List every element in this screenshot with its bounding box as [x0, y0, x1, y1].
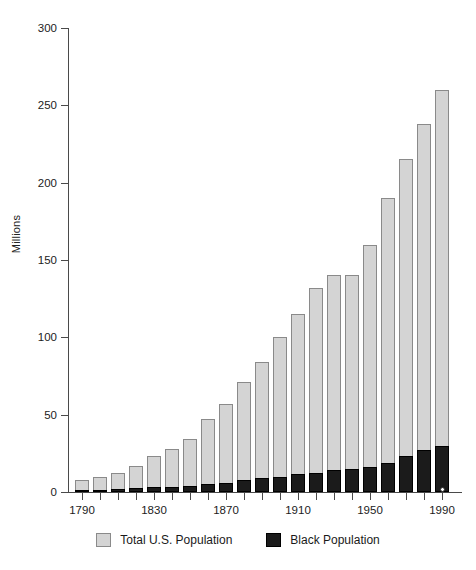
bar-black-population [219, 483, 233, 492]
bar-total-population [363, 245, 377, 492]
x-axis-tick [406, 492, 407, 500]
x-axis-tick [298, 492, 299, 500]
bar-black-population [273, 477, 287, 492]
x-axis-tick [370, 492, 371, 500]
legend-label-black: Black Population [290, 533, 379, 547]
x-axis-tick [352, 492, 353, 500]
bar-black-population [309, 473, 323, 492]
x-axis-tick-label: 1950 [357, 504, 383, 516]
baseline-open-circle-marker [440, 487, 445, 492]
x-axis-tick [136, 492, 137, 500]
legend-item-total: Total U.S. Population [96, 533, 232, 547]
y-axis-title: Millions [10, 194, 22, 274]
y-axis-tick [61, 260, 68, 261]
x-axis-tick [226, 492, 227, 500]
bar-total-population [237, 382, 251, 492]
y-axis-tick-label: 150 [38, 254, 57, 266]
x-axis-tick [118, 492, 119, 500]
x-axis-tick [172, 492, 173, 500]
y-axis-tick [61, 415, 68, 416]
bar-total-population [165, 449, 179, 492]
x-axis-tick-label: 1790 [69, 504, 95, 516]
x-axis-tick [190, 492, 191, 500]
x-axis-tick [154, 492, 155, 500]
bar-total-population [399, 159, 413, 492]
population-bar-chart: Millions 0501001502002503001790183018701… [0, 0, 476, 570]
y-axis-tick [61, 492, 68, 493]
plot-area: 0501001502002503001790183018701910195019… [68, 28, 456, 492]
bar-black-population [399, 456, 413, 492]
y-axis-tick-label: 100 [38, 331, 57, 343]
y-axis-tick-label: 50 [44, 409, 57, 421]
x-axis-tick [280, 492, 281, 500]
bar-black-population [255, 478, 269, 492]
bar-total-population [345, 275, 359, 492]
bar-black-population [237, 480, 251, 492]
y-axis-tick [61, 337, 68, 338]
y-axis-tick-label: 200 [38, 177, 57, 189]
x-axis-tick [316, 492, 317, 500]
bar-black-population [291, 474, 305, 492]
bar-black-population [327, 470, 341, 492]
bar-total-population [273, 337, 287, 492]
y-axis-tick [61, 183, 68, 184]
x-axis-tick-label: 1990 [429, 504, 455, 516]
bar-total-population [381, 198, 395, 492]
bar-total-population [201, 419, 215, 492]
x-axis-line [68, 492, 462, 493]
bar-total-population [309, 288, 323, 492]
bar-total-population [291, 314, 305, 492]
y-axis-tick [61, 28, 68, 29]
bar-black-population [435, 446, 449, 492]
bar-black-population [345, 469, 359, 492]
y-axis-tick-label: 300 [38, 22, 57, 34]
bar-total-population [255, 362, 269, 492]
x-axis-tick [388, 492, 389, 500]
bar-black-population [201, 484, 215, 492]
y-axis-tick [61, 105, 68, 106]
x-axis-tick [262, 492, 263, 500]
bar-total-population [417, 124, 431, 492]
bar-black-population [417, 450, 431, 492]
x-axis-tick [442, 492, 443, 500]
chart-legend: Total U.S. Population Black Population [0, 533, 476, 547]
x-axis-tick [334, 492, 335, 500]
bar-black-population [363, 467, 377, 492]
x-axis-tick [244, 492, 245, 500]
x-axis-tick [208, 492, 209, 500]
x-axis-tick [100, 492, 101, 500]
x-axis-tick [424, 492, 425, 500]
x-axis-tick-label: 1830 [141, 504, 167, 516]
x-axis-tick-label: 1910 [285, 504, 311, 516]
bar-total-population [327, 275, 341, 492]
y-axis-tick-label: 250 [38, 99, 57, 111]
bar-total-population [435, 90, 449, 492]
legend-label-total: Total U.S. Population [120, 533, 232, 547]
x-axis-tick [82, 492, 83, 500]
y-axis-tick-label: 0 [51, 486, 57, 498]
bar-total-population [183, 439, 197, 492]
bar-total-population [219, 404, 233, 492]
bar-black-population [381, 463, 395, 492]
x-axis-tick-label: 1870 [213, 504, 239, 516]
black-swatch [266, 533, 281, 547]
light-gray-swatch [96, 533, 111, 547]
legend-item-black: Black Population [266, 533, 379, 547]
